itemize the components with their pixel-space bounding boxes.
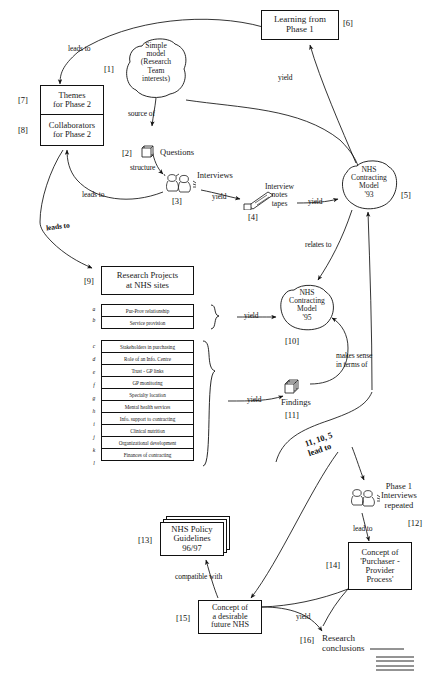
node-label-research-conclusions: Research conclusions bbox=[322, 634, 365, 654]
edge-15-to-16 bbox=[262, 607, 322, 631]
relation-relates-to: relates to bbox=[305, 240, 331, 249]
edge-1-to-5 bbox=[186, 100, 358, 166]
tag-4: [4] bbox=[248, 212, 258, 222]
table-row[interactable]: Specialty location bbox=[102, 389, 194, 401]
node-label: NHS Contracting Model '93 bbox=[337, 166, 401, 199]
table-row[interactable]: Info. support to contracting bbox=[102, 413, 194, 425]
table-row[interactable]: Finances of contracting bbox=[102, 449, 194, 461]
node-themes-for-phase-2[interactable]: Themes for Phase 2 bbox=[40, 85, 104, 115]
node-concept-desirable-future-nhs[interactable]: Concept of a desirable future NHS bbox=[198, 600, 262, 634]
node-collaborators-for-phase-2[interactable]: Collaborators for Phase 2 bbox=[40, 115, 104, 146]
project-letter-d: d bbox=[90, 356, 98, 362]
tag-2: [2] bbox=[122, 148, 132, 158]
node-label-findings: Findings bbox=[281, 398, 311, 407]
project-label-a: Pur-Prov relationship bbox=[102, 305, 194, 317]
project-letter-b: b bbox=[90, 317, 98, 323]
edge-11105-to-15 bbox=[251, 452, 338, 598]
project-letter-f: f bbox=[90, 382, 98, 388]
node-label-interview-notes: Interview notes tapes bbox=[265, 183, 294, 208]
relation-structure: structure bbox=[130, 163, 155, 172]
diagram-canvas: Learning from Phase 1 [6] Simple model (… bbox=[0, 0, 445, 679]
project-label-j: Clinical nutrition bbox=[102, 425, 194, 437]
project-label-i: Info. support to contracting bbox=[102, 413, 194, 425]
node-nhs-policy-guidelines[interactable]: NHS Policy Guidelines 96/97 bbox=[160, 522, 224, 556]
table-row[interactable]: GP monitoring bbox=[102, 377, 194, 389]
tag-5: [5] bbox=[401, 190, 411, 200]
tag-13: [13] bbox=[138, 535, 152, 545]
tag-11: [11] bbox=[285, 410, 299, 420]
relation-leads-to-projects: leads to bbox=[46, 221, 70, 233]
node-research-projects[interactable]: Research Projects at NHS sites bbox=[101, 266, 194, 295]
tag-12: [12] bbox=[408, 518, 422, 528]
node-label: Collaborators for Phase 2 bbox=[49, 121, 95, 139]
node-nhs-contracting-model-93[interactable]: NHS Contracting Model '93 bbox=[337, 158, 401, 214]
relation-yield-model95: yield bbox=[244, 311, 259, 320]
project-label-g: Specialty location bbox=[102, 389, 194, 401]
node-label-interviews: Interviews bbox=[197, 171, 233, 180]
edge-11105-to-12 bbox=[352, 447, 364, 480]
project-letter-e: e bbox=[90, 369, 98, 375]
project-label-d: Role of an Info. Centre bbox=[102, 353, 194, 365]
node-label-phase1-interviews-repeated: Phase 1 Interviews repeated bbox=[381, 482, 417, 510]
project-letter-l: l bbox=[90, 460, 98, 466]
relation-leads-to-themes: leads to bbox=[68, 44, 90, 53]
relation-yield-interviews: yield bbox=[212, 192, 227, 201]
tag-8: [8] bbox=[18, 125, 28, 135]
node-label: Concept of 'Purchaser - Provider Process… bbox=[360, 548, 399, 584]
project-label-l: Finances of contracting bbox=[102, 449, 194, 461]
project-table-group-2[interactable]: Stakeholders in purchasing Role of an In… bbox=[101, 340, 194, 461]
node-label: Research Projects at NHS sites bbox=[117, 271, 178, 290]
table-row[interactable]: Service provision bbox=[102, 317, 194, 329]
table-row[interactable]: Mental health services bbox=[102, 401, 194, 413]
node-concept-purchaser-provider-process[interactable]: Concept of 'Purchaser - Provider Process… bbox=[348, 542, 412, 590]
node-label: Learning from Phase 1 bbox=[274, 15, 326, 34]
node-simple-model[interactable]: Simple model (Research Team interests) bbox=[120, 36, 192, 100]
project-label-c: Stakeholders in purchasing bbox=[102, 341, 194, 353]
project-letter-g: g bbox=[90, 395, 98, 401]
relation-yield-tapes: yield bbox=[308, 197, 323, 206]
node-label-questions: Questions bbox=[160, 148, 194, 157]
project-letter-c: c bbox=[90, 343, 98, 349]
relation-lead-to-concept: lead to bbox=[353, 524, 373, 533]
table-row[interactable]: Trust - GP links bbox=[102, 365, 194, 377]
project-letter-h: h bbox=[90, 408, 98, 414]
interviews-people-icon bbox=[163, 172, 199, 198]
relation-yield-findings: yield bbox=[247, 395, 262, 404]
tag-6: [6] bbox=[343, 18, 353, 28]
node-label: Concept of a desirable future NHS bbox=[211, 604, 249, 631]
edge-14-to-15-a bbox=[262, 589, 348, 607]
project-letter-k: k bbox=[90, 447, 98, 453]
node-label: Themes for Phase 2 bbox=[53, 91, 91, 109]
tag-15: [15] bbox=[176, 613, 190, 623]
tag-14: [14] bbox=[326, 560, 340, 570]
tag-1: [1] bbox=[104, 64, 114, 74]
node-label: NHS Contracting Model '95 bbox=[276, 289, 338, 322]
table-row[interactable]: Pur-Prov relationship bbox=[102, 305, 194, 317]
relation-yield-conclusions: yield bbox=[296, 612, 311, 621]
project-table-group-1[interactable]: Pur-Prov relationship Service provision bbox=[101, 304, 194, 329]
project-letter-j: j bbox=[90, 434, 98, 440]
project-label-h: Mental health services bbox=[102, 401, 194, 413]
table-row[interactable]: Stakeholders in purchasing bbox=[102, 341, 194, 353]
node-nhs-contracting-model-95[interactable]: NHS Contracting Model '95 bbox=[276, 283, 338, 335]
project-letter-a: a bbox=[90, 306, 98, 312]
relation-source-of: source of bbox=[128, 109, 155, 118]
node-learning-from-phase-1[interactable]: Learning from Phase 1 bbox=[261, 10, 339, 40]
tag-10: [10] bbox=[285, 336, 299, 346]
table-row[interactable]: Organizational development bbox=[102, 437, 194, 449]
node-label: NHS Policy Guidelines 96/97 bbox=[171, 525, 212, 553]
project-table-group-2-body: Stakeholders in purchasing Role of an In… bbox=[102, 341, 194, 461]
tag-3: [3] bbox=[172, 196, 182, 206]
relation-11-10-5-lead-to: 11, 10, 5 lead to bbox=[303, 430, 336, 459]
tag-16: [16] bbox=[300, 635, 314, 645]
project-label-e: Trust - GP links bbox=[102, 365, 194, 377]
project-label-f: GP monitoring bbox=[102, 377, 194, 389]
edge-14-to-16 bbox=[323, 589, 348, 626]
relation-leads-to-collaborators: leads to bbox=[82, 190, 104, 199]
questions-doc-icon bbox=[140, 144, 157, 164]
table-row[interactable]: Role of an Info. Centre bbox=[102, 353, 194, 365]
relation-makes-sense-in-terms-of: makes sense in terms of bbox=[336, 352, 372, 369]
edge-5-to-6 bbox=[310, 45, 356, 163]
table-row[interactable]: Clinical nutrition bbox=[102, 425, 194, 437]
relation-compatible-with: compatible with bbox=[175, 572, 222, 581]
